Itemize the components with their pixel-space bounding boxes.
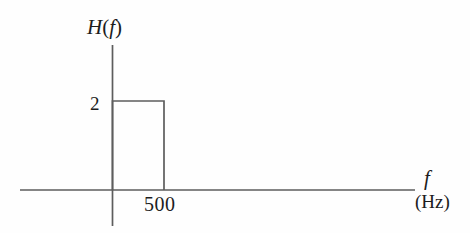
y-axis-label: H(f) — [87, 17, 122, 38]
y-axis-label-prefix: H — [87, 15, 102, 39]
x-tick-label-500: 500 — [144, 194, 176, 214]
x-axis-label: f — [424, 168, 430, 189]
rect-pulse-curve — [113, 101, 165, 190]
x-axis-unit-label: (Hz) — [415, 192, 450, 211]
filter-response-plot — [0, 0, 470, 233]
figure-canvas: H(f) 2 500 f (Hz) — [0, 0, 470, 233]
axes-group — [20, 45, 415, 226]
y-axis-label-close-paren: ) — [115, 15, 122, 39]
y-tick-label-2: 2 — [90, 94, 100, 113]
response-curve-group — [113, 101, 165, 190]
